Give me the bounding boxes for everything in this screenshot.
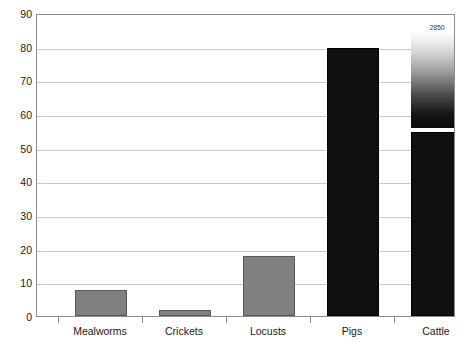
bar-cattle-lower [411, 132, 455, 316]
x-axis: Mealworms Crickets Locusts Pigs Cattle [36, 317, 455, 358]
x-tick [394, 317, 395, 323]
bar-mealworms [75, 290, 127, 316]
y-axis: 90 80 70 60 50 40 30 20 10 0 [0, 14, 32, 317]
y-tick-label: 90 [2, 9, 32, 20]
x-label-mealworms: Mealworms [73, 326, 127, 337]
x-tick [226, 317, 227, 323]
x-tick [142, 317, 143, 323]
bar-chart: 90 80 70 60 50 40 30 20 10 0 [0, 0, 467, 358]
x-tick [58, 317, 59, 323]
plot-area: 2850 [36, 14, 455, 317]
bar-locusts [243, 256, 295, 316]
y-tick-label: 30 [2, 211, 32, 222]
gridline-20 [37, 251, 454, 252]
x-tick [310, 317, 311, 323]
bar-cattle-upper [411, 31, 455, 128]
y-tick-label: 20 [2, 244, 32, 255]
gridline-30 [37, 217, 454, 218]
bar-pigs [327, 48, 379, 316]
y-tick-label: 80 [2, 42, 32, 53]
gridline-80 [37, 49, 454, 50]
gridline-50 [37, 150, 454, 151]
y-tick-label: 10 [2, 278, 32, 289]
gridline-60 [37, 116, 454, 117]
x-label-crickets: Crickets [165, 326, 203, 337]
y-tick-label: 60 [2, 110, 32, 121]
x-label-cattle: Cattle [422, 326, 449, 337]
y-tick-label: 70 [2, 76, 32, 87]
bar-cattle-value-label: 2850 [411, 24, 455, 31]
gridline-70 [37, 82, 454, 83]
y-tick-label: 0 [2, 312, 32, 323]
y-tick-label: 50 [2, 143, 32, 154]
y-tick-label: 40 [2, 177, 32, 188]
x-label-locusts: Locusts [250, 326, 286, 337]
x-label-pigs: Pigs [342, 326, 362, 337]
gridline-40 [37, 183, 454, 184]
bar-crickets [159, 310, 211, 316]
